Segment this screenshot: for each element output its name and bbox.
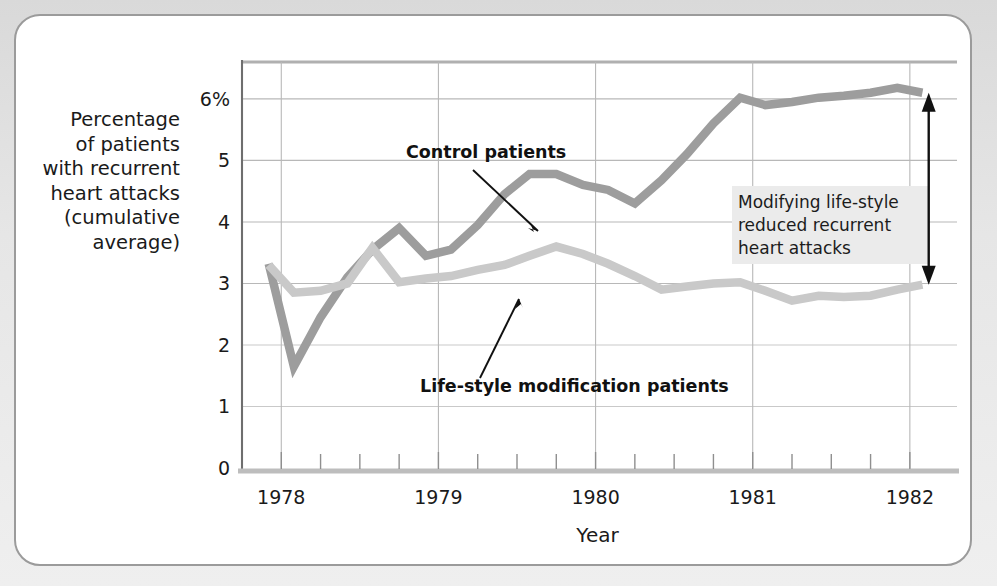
- y-tick-label-1: 1: [218, 395, 230, 417]
- y-tick-label-0: 0: [218, 457, 230, 479]
- series-label-control: Control patients: [406, 142, 566, 162]
- y-tick-label-4: 4: [218, 211, 230, 233]
- x-axis-title: Year: [575, 523, 619, 547]
- series-label-lifestyle: Life-style modification patients: [420, 376, 729, 396]
- y-axis-title-line-5: (cumulative: [64, 206, 180, 229]
- y-tick-label-3: 3: [218, 272, 230, 294]
- annotation-arrow-head-down: [922, 266, 936, 285]
- x-year-label-1979: 1979: [414, 486, 462, 508]
- x-year-label-1980: 1980: [571, 486, 619, 508]
- figure-card: 6%543210Percentageof patientswith recurr…: [14, 14, 972, 566]
- x-year-label-1978: 1978: [257, 486, 305, 508]
- y-axis-title-line-3: with recurrent: [43, 157, 181, 180]
- y-tick-label-6pct: 6%: [200, 88, 230, 110]
- y-axis-title-line-6: average): [93, 231, 180, 254]
- y-axis-title-line-1: Percentage: [70, 108, 180, 131]
- y-tick-label-2: 2: [218, 334, 230, 356]
- annotation-line-2: reduced recurrent: [738, 215, 891, 235]
- chart-figure: 6%543210Percentageof patientswith recurr…: [16, 16, 974, 568]
- annotation-arrow-head-up: [922, 93, 936, 112]
- chart-svg: 6%543210Percentageof patientswith recurr…: [16, 16, 974, 568]
- annotation-line-3: heart attacks: [738, 238, 851, 258]
- y-tick-label-5: 5: [218, 149, 230, 171]
- y-axis-title-line-4: heart attacks: [50, 182, 180, 205]
- series-leader-line-lifestyle: [480, 299, 519, 378]
- page-background: 6%543210Percentageof patientswith recurr…: [0, 0, 997, 586]
- y-axis-title-line-2: of patients: [75, 133, 180, 156]
- x-year-label-1982: 1982: [886, 486, 934, 508]
- x-year-label-1981: 1981: [729, 486, 777, 508]
- annotation-line-1: Modifying life-style: [738, 192, 899, 212]
